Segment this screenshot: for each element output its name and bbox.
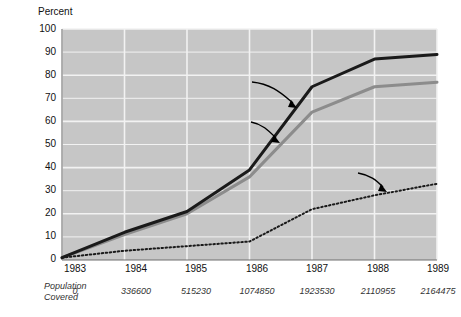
chart-figure: Percent 100 90 80 70 60 50 40 30 20 10 0… bbox=[0, 0, 453, 317]
chart-plot-svg bbox=[0, 0, 453, 317]
